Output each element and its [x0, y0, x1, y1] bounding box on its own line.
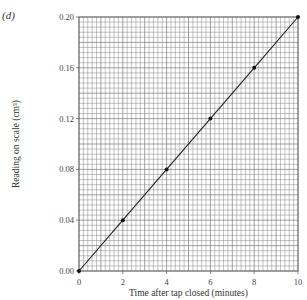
data-point-marker [77, 269, 81, 273]
y-tick-label: 0.16 [59, 63, 74, 73]
data-point-marker [208, 117, 212, 121]
x-tick-label: 10 [294, 277, 303, 287]
data-point-marker [121, 218, 125, 222]
x-tick-label: 2 [121, 277, 125, 287]
data-point-marker [296, 15, 300, 19]
x-tick-label: 6 [208, 277, 212, 287]
x-tick-label: 4 [164, 277, 169, 287]
line-chart: 0246810 0.000.040.080.120.160.20 Time af… [0, 0, 307, 300]
y-tick-label: 0.04 [59, 215, 75, 225]
y-tick-label: 0.08 [59, 164, 74, 174]
y-axis-ticks: 0.000.040.080.120.160.20 [59, 12, 79, 276]
y-tick-label: 0.20 [59, 12, 74, 22]
data-point-marker [252, 66, 256, 70]
x-tick-label: 0 [77, 277, 81, 287]
x-axis-ticks: 0246810 [77, 271, 302, 287]
y-axis-title: Reading on scale (cm³) [11, 100, 22, 188]
y-tick-label: 0.00 [59, 266, 74, 276]
x-tick-label: 8 [252, 277, 256, 287]
data-point-marker [165, 167, 169, 171]
x-axis-title: Time after tap closed (minutes) [129, 288, 248, 299]
y-tick-label: 0.12 [59, 114, 74, 124]
